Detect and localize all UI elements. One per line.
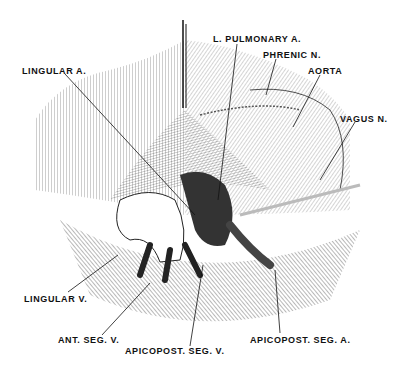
label-lingular-a: LINGULAR A. (22, 66, 86, 76)
label-apicopost-seg-v: APICOPOST. SEG. V. (125, 346, 225, 356)
label-ant-seg-v: ANT. SEG. V. (58, 335, 119, 345)
label-lingular-v: LINGULAR V. (24, 294, 87, 304)
label-phrenic-n: PHRENIC N. (263, 50, 321, 60)
label-l-pulmonary-a: L. PULMONARY A. (213, 34, 301, 44)
label-vagus-n: VAGUS N. (340, 114, 388, 124)
label-aorta: AORTA (308, 66, 342, 76)
anatomical-illustration (0, 0, 411, 372)
label-apicopost-seg-a: APICOPOST. SEG. A. (250, 335, 350, 345)
